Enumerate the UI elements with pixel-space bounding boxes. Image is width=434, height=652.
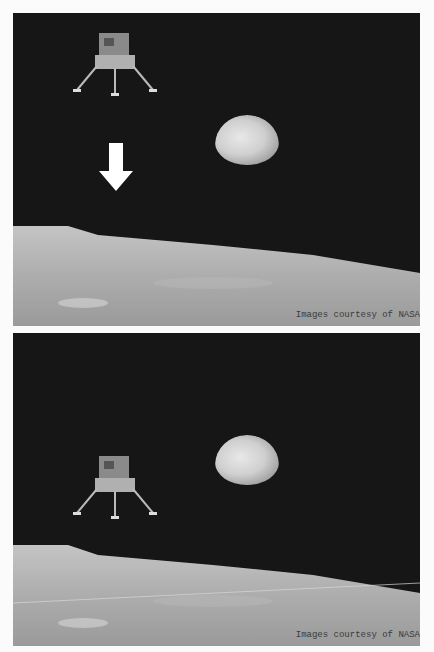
credit-text: Images courtesy of NASA	[296, 630, 420, 640]
lunar-module-image	[71, 451, 161, 521]
down-arrow-icon	[99, 143, 133, 191]
lunar-module-image	[71, 28, 161, 98]
panel-before: Images courtesy of NASA	[13, 13, 420, 326]
credit-text: Images courtesy of NASA	[296, 310, 420, 320]
panel-after: Images courtesy of NASA	[13, 333, 420, 646]
